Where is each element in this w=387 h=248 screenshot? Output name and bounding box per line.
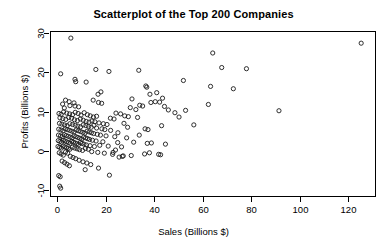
axis-box	[51, 32, 376, 197]
plot-area: 020406080100120 -100102030	[0, 0, 387, 248]
svg-text:0: 0	[35, 149, 46, 154]
y-axis-label: Profits (Billions $)	[19, 22, 30, 202]
svg-text:120: 120	[341, 204, 357, 215]
x-axis-label: Sales (Billions $)	[0, 226, 387, 237]
x-axis-ticks: 020406080100120	[55, 197, 357, 215]
y-axis-ticks: -100102030	[35, 28, 50, 197]
svg-text:60: 60	[198, 204, 209, 215]
svg-text:-10: -10	[35, 184, 46, 198]
svg-text:10: 10	[35, 107, 46, 118]
svg-text:40: 40	[149, 204, 160, 215]
svg-text:20: 20	[35, 67, 46, 78]
scatterplot-figure: Scatterplot of the Top 200 Companies 020…	[0, 0, 387, 248]
data-points-layer	[56, 36, 363, 190]
svg-text:80: 80	[246, 204, 257, 215]
svg-text:20: 20	[101, 204, 112, 215]
svg-text:0: 0	[55, 204, 60, 215]
svg-text:30: 30	[35, 28, 46, 39]
svg-text:100: 100	[293, 204, 309, 215]
